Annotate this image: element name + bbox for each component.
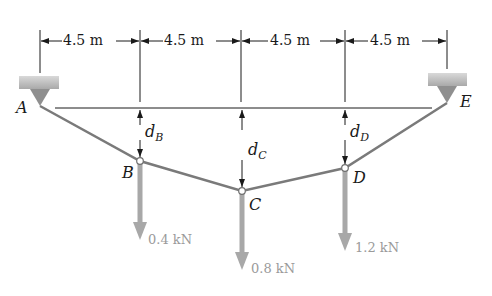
point-label-d: D	[353, 168, 366, 187]
point-label-c: C	[249, 195, 261, 214]
dimension-label-bc: 4.5 m	[164, 32, 204, 48]
dimension-label-de: 4.5 m	[370, 32, 410, 48]
sag-label-dc: dC	[248, 140, 267, 162]
sag-label-dd: dD	[350, 122, 369, 144]
cable-diagram: 4.5 m 4.5 m 4.5 m 4.5 m A B C D E dB dC …	[0, 0, 492, 296]
load-label-c: 0.8 kN	[251, 261, 295, 276]
dimension-label-ab: 4.5 m	[63, 32, 103, 48]
dimension-label-cd: 4.5 m	[270, 32, 310, 48]
load-label-d: 1.2 kN	[355, 240, 399, 255]
cable	[40, 103, 447, 191]
point-label-a: A	[16, 98, 28, 117]
point-label-e: E	[460, 92, 472, 111]
point-label-b: B	[122, 163, 134, 182]
load-label-b: 0.4 kN	[148, 232, 192, 247]
sag-label-db: dB	[145, 122, 163, 144]
